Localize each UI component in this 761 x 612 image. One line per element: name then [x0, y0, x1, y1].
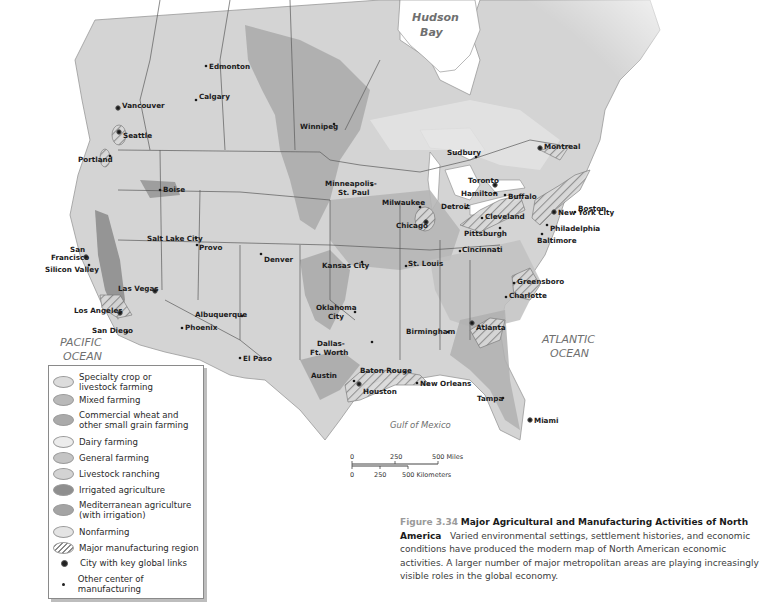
city-label-salt-lake-city: Salt Lake City	[147, 234, 203, 243]
city-label-tampa: Tampa	[477, 394, 503, 403]
scale-miles-500: 500 Miles	[432, 453, 464, 461]
swatch-livestock-ranching	[53, 468, 74, 480]
swatch-wheat	[53, 414, 74, 426]
scale-bar: 0 250 500 Miles 0 250 500 Kilometers	[350, 452, 480, 482]
city-label-dallas: Dallas-	[317, 339, 345, 348]
city-label-los-angeles: Los Angeles	[74, 306, 123, 315]
legend-label: Livestock ranching	[79, 469, 160, 479]
city-label-seattle: Seattle	[123, 131, 152, 140]
legend-label: other small grain farming	[79, 420, 188, 430]
city-label-cincinnati: Cincinnati	[462, 245, 503, 254]
scale-miles-0: 0	[350, 453, 354, 461]
hudson-bay-label: Hudson	[412, 11, 459, 24]
city-label-boise: Boise	[163, 185, 185, 194]
city-label-cleveland: Cleveland	[485, 212, 525, 221]
city-label-vancouver: Vancouver	[122, 101, 165, 110]
scale-miles-250: 250	[390, 453, 402, 461]
swatch-specialty-crop	[53, 376, 74, 388]
city-label-birmingham: Birmingham	[406, 327, 455, 336]
city-label-phoenix: Phoenix	[185, 323, 218, 332]
swatch-manufacturing-hatch	[53, 542, 74, 554]
legend-item-mixed-farming: Mixed farming	[53, 394, 140, 406]
legend-item-wheat: Commercial wheat andother small grain fa…	[53, 410, 188, 430]
city-label-provo: Provo	[199, 243, 222, 252]
legend-label: General farming	[79, 453, 149, 463]
city-label-denver: Denver	[264, 255, 294, 264]
scale-bar-graphic: 0 250 500 Miles 0 250 500 Kilometers	[350, 452, 480, 482]
city-label-atlanta: Atlanta	[476, 323, 506, 332]
city-label-miami: Miami	[534, 416, 558, 425]
city-label-san-diego: San Diego	[92, 326, 133, 335]
city-label-houston: Houston	[363, 387, 397, 396]
legend-item-irrigated: Irrigated agriculture	[53, 484, 165, 496]
legend-item-nonfarming: Nonfarming	[53, 526, 129, 538]
scale-km-500: 500 Kilometers	[402, 471, 452, 479]
city-label-ft-worth: Ft. Worth	[310, 348, 348, 357]
city-label-oklahoma-city: City	[328, 312, 344, 321]
legend-label: Commercial wheat and	[79, 410, 178, 420]
city-label-minneapolis: Minneapolis-	[325, 179, 377, 188]
swatch-irrigated	[53, 484, 74, 496]
figure-caption: Figure 3.34 Major Agricultural and Manuf…	[400, 516, 760, 584]
city-label-edmonton: Edmonton	[209, 62, 250, 71]
gulf-of-mexico-label: Gulf of Mexico	[390, 420, 451, 430]
legend-label: (with irrigation)	[79, 510, 146, 520]
city-label-sudbury: Sudbury	[447, 148, 481, 157]
city-label-milwaukee: Milwaukee	[382, 198, 425, 207]
legend-label: livestock farming	[79, 382, 153, 392]
city-label-baltimore: Baltimore	[537, 236, 577, 245]
legend-label: Major manufacturing region	[79, 543, 199, 553]
legend-item-specialty-crop: Specialty crop orlivestock farming	[53, 372, 153, 392]
legend-label: City with key global links	[80, 558, 187, 568]
city-label-el-paso: El Paso	[243, 354, 272, 363]
city-label-las-vegas: Las Vegas	[118, 284, 159, 293]
atlantic-ocean-label-2: OCEAN	[550, 347, 589, 360]
swatch-mixed-farming	[53, 394, 74, 406]
city-label-baton-rouge: Baton Rouge	[360, 366, 412, 375]
pacific-ocean-label-2: OCEAN	[63, 350, 102, 363]
atlantic-ocean-label: ATLANTIC	[541, 333, 595, 346]
city-label-hamilton: Hamilton	[461, 189, 498, 198]
swatch-general-farming	[53, 452, 74, 464]
city-label-philadelphia: Philadelphia	[550, 224, 600, 233]
legend-item-general-farming: General farming	[53, 452, 149, 464]
city-label-new-orleans: New Orleans	[420, 379, 471, 388]
legend-item-manufacturing: Major manufacturing region	[53, 542, 199, 554]
city-label-austin: Austin	[311, 371, 337, 380]
global-city-dot-icon	[61, 560, 68, 567]
legend-label: Nonfarming	[79, 527, 129, 537]
legend-label: Mediterranean agriculture	[79, 500, 191, 510]
legend-item-manufacturing-center: Other center of manufacturing	[53, 574, 203, 594]
city-label-chicago: Chicago	[396, 221, 428, 230]
hudson-bay-label-2: Bay	[420, 26, 443, 39]
manufacturing-center-dot-icon	[62, 583, 65, 586]
city-label-detroit: Detroit	[441, 202, 470, 211]
map-legend: Specialty crop orlivestock farming Mixed…	[48, 365, 204, 599]
city-label-greensboro: Greensboro	[517, 277, 564, 286]
swatch-mediterranean	[53, 504, 74, 516]
legend-label: Dairy farming	[79, 437, 138, 447]
city-label-kansas-city: Kansas City	[322, 261, 370, 270]
city-label-st-louis: St. Louis	[408, 259, 443, 268]
city-label-buffalo: Buffalo	[508, 192, 537, 201]
swatch-nonfarming	[53, 526, 74, 538]
city-label-francisco: Francisco	[51, 253, 89, 262]
city-label-albuquerque: Albuquerque	[195, 310, 247, 319]
figure-body: Varied environmental settings, settlemen…	[400, 531, 759, 582]
legend-item-livestock-ranching: Livestock ranching	[53, 468, 160, 480]
swatch-dairy	[53, 436, 74, 448]
legend-item-global-city: City with key global links	[53, 558, 187, 568]
legend-label: Other center of manufacturing	[78, 574, 203, 594]
legend-label: Irrigated agriculture	[79, 485, 165, 495]
city-label-montreal: Montreal	[544, 142, 580, 151]
city-label-winnipeg: Winnipeg	[300, 122, 338, 131]
legend-item-dairy: Dairy farming	[53, 436, 138, 448]
pacific-ocean-label: PACIFIC	[60, 336, 102, 349]
city-label-pittsburgh: Pittsburgh	[464, 229, 507, 238]
city-label-new-york-city: New York City	[558, 208, 615, 217]
city-label-st-paul: St. Paul	[338, 188, 369, 197]
city-label-charlotte: Charlotte	[509, 291, 547, 300]
legend-label: Specialty crop or	[79, 372, 151, 382]
legend-label: Mixed farming	[79, 395, 140, 405]
city-label-oklahoma: Oklahoma	[316, 303, 357, 312]
